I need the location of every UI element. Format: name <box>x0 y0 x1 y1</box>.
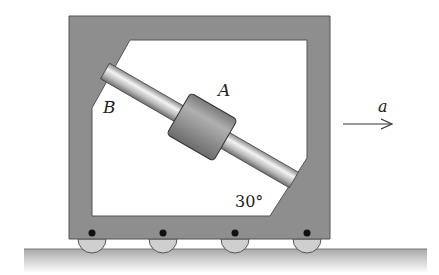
label-rod-end-b: B <box>102 97 116 117</box>
label-acceleration: a <box>378 97 388 116</box>
label-collar-a: A <box>216 80 230 100</box>
acceleration-arrow <box>343 119 392 129</box>
label-angle: 30° <box>235 192 263 211</box>
ground <box>24 249 427 273</box>
cart-diagram: A B 30° a <box>0 0 439 275</box>
